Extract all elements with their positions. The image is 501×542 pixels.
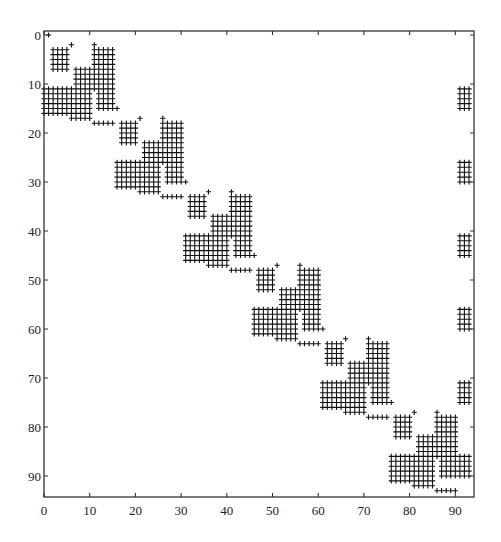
y-tick-label: 90 — [28, 469, 41, 484]
x-tick-label: 30 — [175, 503, 188, 518]
y-tick-label: 40 — [28, 224, 41, 239]
nonzero-markers — [41, 32, 471, 493]
x-tick-label: 40 — [220, 503, 233, 518]
x-tick-label: 90 — [449, 503, 462, 518]
y-axis-tick-labels: 0102030405060708090 — [28, 28, 41, 484]
x-axis-tick-labels: 0102030405060708090 — [41, 503, 462, 518]
y-tick-label: 70 — [28, 371, 41, 386]
y-tick-label: 30 — [28, 175, 41, 190]
x-tick-label: 60 — [312, 503, 325, 518]
x-tick-label: 0 — [41, 503, 48, 518]
x-tick-label: 20 — [129, 503, 142, 518]
x-tick-label: 50 — [266, 503, 279, 518]
y-tick-label: 10 — [28, 77, 41, 92]
sparsity-plot: 0102030405060708090 0102030405060708090 — [0, 0, 501, 542]
x-tick-label: 80 — [403, 503, 416, 518]
y-tick-label: 60 — [28, 322, 41, 337]
x-tick-label: 70 — [357, 503, 370, 518]
x-tick-label: 10 — [83, 503, 96, 518]
plus-marker-path — [41, 32, 471, 493]
y-tick-label: 0 — [35, 28, 42, 43]
y-tick-label: 80 — [28, 420, 41, 435]
y-tick-label: 50 — [28, 273, 41, 288]
y-tick-label: 20 — [28, 126, 41, 141]
